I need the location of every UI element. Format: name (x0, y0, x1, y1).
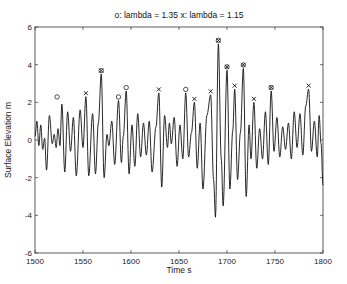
y-tick-label: 4 (28, 61, 33, 70)
x-axis-label: Time s (166, 265, 191, 275)
y-tick-label: -2 (25, 174, 33, 183)
x-tick-label: 1750 (266, 257, 284, 266)
x-tick-label: 1600 (122, 257, 140, 266)
x-tick-label: 1800 (314, 257, 332, 266)
y-tick-label: -6 (25, 249, 33, 258)
y-axis-label: Surface Elevation m (3, 102, 13, 178)
chart-title: o: lambda = 1.35 x: lambda = 1.15 (114, 10, 243, 20)
figure: o: lambda = 1.35 x: lambda = 1.15 150015… (0, 0, 347, 284)
y-tick-label: 6 (28, 23, 33, 32)
x-tick-label: 1500 (26, 257, 44, 266)
x-tick-label: 1550 (74, 257, 92, 266)
plot-area: 1500155016001650170017501800 -6-4-20246 (25, 23, 333, 266)
y-tick-label: -4 (25, 211, 33, 220)
x-tick-label: 1700 (218, 257, 236, 266)
y-tick-label: 2 (28, 98, 33, 107)
y-tick-label: 0 (28, 136, 33, 145)
